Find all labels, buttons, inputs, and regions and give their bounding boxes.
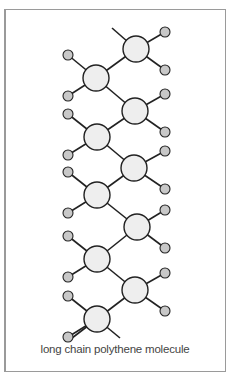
carbon-atom bbox=[123, 36, 149, 62]
carbon-atom bbox=[122, 277, 148, 303]
hydrogen-atom bbox=[160, 65, 170, 75]
carbon-atom bbox=[84, 306, 110, 332]
carbon-atom bbox=[84, 182, 110, 208]
hydrogen-atom bbox=[160, 243, 170, 253]
hydrogen-atom bbox=[160, 146, 170, 156]
hydrogen-atom bbox=[160, 205, 170, 215]
hydrogen-atom bbox=[63, 332, 73, 342]
hydrogen-atom bbox=[63, 291, 73, 301]
hydrogen-atom bbox=[160, 268, 170, 278]
carbon-atom bbox=[124, 214, 150, 240]
hydrogen-atom bbox=[63, 231, 73, 241]
hydrogen-atom bbox=[160, 184, 170, 194]
carbon-atom bbox=[121, 155, 147, 181]
carbon-atom bbox=[122, 98, 148, 124]
hydrogen-atom bbox=[160, 89, 170, 99]
hydrogen-atom bbox=[63, 167, 73, 177]
carbon-atom bbox=[83, 65, 109, 91]
hydrogen-atom bbox=[63, 208, 73, 218]
polythene-molecule-diagram bbox=[0, 0, 230, 381]
hydrogen-atom bbox=[63, 150, 73, 160]
carbon-atom bbox=[84, 246, 110, 272]
hydrogen-atom bbox=[160, 27, 170, 37]
hydrogen-atom bbox=[63, 91, 73, 101]
hydrogen-atom bbox=[63, 109, 73, 119]
diagram-caption: long chain polythene molecule bbox=[0, 343, 230, 355]
hydrogen-atom bbox=[63, 272, 73, 282]
carbon-atom bbox=[84, 124, 110, 150]
hydrogen-atom bbox=[160, 306, 170, 316]
hydrogen-atom bbox=[63, 50, 73, 60]
hydrogen-atom bbox=[160, 127, 170, 137]
